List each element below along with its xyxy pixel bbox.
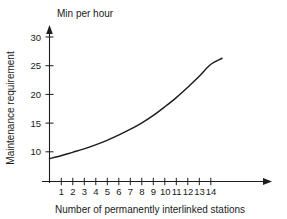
x-tick-label-8: 8	[139, 186, 144, 197]
x-axis-arrow-icon	[263, 178, 272, 185]
chart-title: Min per hour	[57, 8, 114, 19]
chart-page: 30 25 20 15 10 1 2 3 4	[0, 0, 287, 219]
x-axis-title: Number of permanently interlinked statio…	[55, 204, 245, 215]
x-tick-label-14: 14	[206, 186, 217, 197]
x-tick-label-3: 3	[82, 186, 87, 197]
x-tick-label-12: 12	[183, 186, 194, 197]
x-tick-label-13: 13	[194, 186, 205, 197]
x-tick-label-2: 2	[70, 186, 75, 197]
y-axis-title: Maintenance requirement	[5, 51, 16, 165]
y-tick-label-15: 15	[30, 118, 41, 129]
x-tick-label-1: 1	[59, 186, 64, 197]
y-tick-label-30: 30	[30, 32, 41, 43]
x-tick-label-5: 5	[105, 186, 110, 197]
x-tick-label-10: 10	[160, 186, 171, 197]
maintenance-requirement-line-chart: 30 25 20 15 10 1 2 3 4	[0, 0, 287, 219]
x-tick-label-4: 4	[93, 186, 98, 197]
x-tick-label-7: 7	[128, 186, 133, 197]
y-axis-arrow-icon	[46, 25, 53, 34]
x-tick-label-9: 9	[151, 186, 156, 197]
y-axis-tick-labels: 30 25 20 15 10	[30, 32, 41, 158]
x-tick-label-11: 11	[172, 186, 182, 197]
y-tick-label-20: 20	[30, 89, 41, 100]
maintenance-curve	[50, 58, 223, 158]
y-tick-label-25: 25	[30, 60, 41, 71]
x-tick-label-6: 6	[116, 186, 121, 197]
x-axis-tick-labels: 1 2 3 4 5 6 7 8 9 10 11 12 13 14	[59, 186, 217, 197]
y-tick-label-10: 10	[30, 146, 41, 157]
